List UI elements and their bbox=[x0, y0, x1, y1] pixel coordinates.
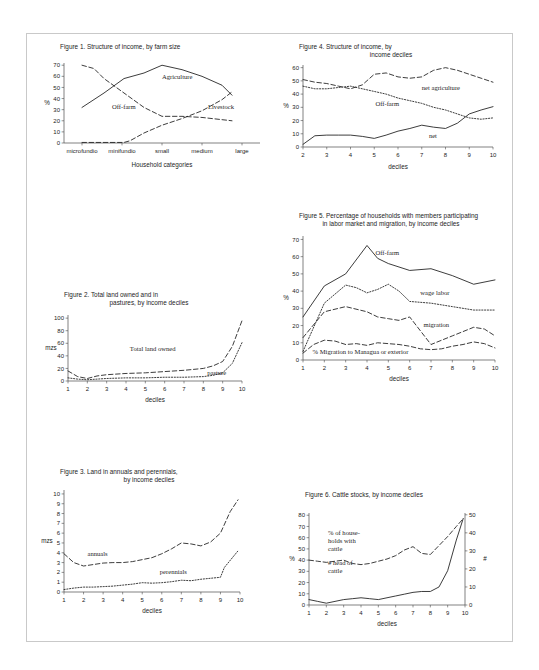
figure5-series-label: wage labor bbox=[420, 289, 450, 296]
figure2-y-tick-label: 60 bbox=[57, 340, 64, 346]
figure4-x-tick-label: 5 bbox=[373, 152, 377, 158]
figure2-y-tick-label: 100 bbox=[54, 315, 65, 321]
figure2-series-label: pasture bbox=[207, 369, 226, 376]
figure-4-structure-of-income-by-income-deciles: Figure 4. Structure of income, byincome … bbox=[275, 41, 507, 181]
figure6-title-line: Figure 6. Cattle stocks, by income decil… bbox=[305, 491, 423, 499]
figure4-y-axis-label: % bbox=[283, 102, 289, 109]
figure6-x-tick-label: 10 bbox=[462, 610, 469, 616]
figure4-y-tick-label: 50 bbox=[292, 78, 299, 84]
figure3-y-axis-label: mzs bbox=[41, 537, 53, 544]
figure6-x-tick-label: 7 bbox=[411, 610, 415, 616]
figure6-x-tick-label: 2 bbox=[325, 610, 329, 616]
figure1-y-axis-label: % bbox=[44, 99, 50, 106]
figure5-x-tick-label: 2 bbox=[323, 365, 327, 371]
figure3-x-tick-label: 7 bbox=[180, 597, 184, 603]
figure5-x-tick-label: 9 bbox=[472, 365, 476, 371]
figure6-svg: Figure 6. Cattle stocks, by income decil… bbox=[275, 489, 505, 641]
figure-3-land-in-annuals-and-perennials: Figure 3. Land in annuals and perennials… bbox=[34, 466, 264, 626]
figure3-title-line: Figure 3. Land in annuals and perennials… bbox=[60, 468, 178, 476]
figure5-title-line: in labor market and migration, by income… bbox=[322, 220, 459, 228]
figure3-y-tick-label: 5 bbox=[57, 540, 61, 546]
figure5-x-tick-label: 10 bbox=[492, 365, 499, 371]
figure3-x-tick-label: 10 bbox=[237, 597, 244, 603]
figure2-y-tick-label: 80 bbox=[57, 328, 64, 334]
figure5-x-tick-label: 4 bbox=[365, 365, 369, 371]
figure2-x-tick-label: 6 bbox=[163, 386, 167, 392]
figure6-x-axis-label: deciles bbox=[377, 620, 397, 627]
figure6-y-tick-label: 60 bbox=[298, 535, 305, 541]
figure6-x-tick-label: 4 bbox=[359, 610, 363, 616]
figure1-x-tick-label: microfundio bbox=[66, 148, 98, 154]
figure3-y-tick-label: 1 bbox=[57, 579, 61, 585]
figure3-y-tick-label: 6 bbox=[57, 530, 61, 536]
figure5-x-tick-label: 3 bbox=[344, 365, 348, 371]
figure3-y-tick-label: 2 bbox=[57, 569, 61, 575]
figure3-series-label: annuals bbox=[87, 550, 108, 557]
figure5-x-tick-label: 7 bbox=[429, 365, 433, 371]
figure1-x-tick-label: large bbox=[235, 148, 249, 154]
figure4-title-line: income deciles bbox=[370, 51, 412, 58]
figure3-series-label: perennials bbox=[160, 568, 188, 575]
figure6-x-tick-label: 5 bbox=[377, 610, 381, 616]
figure2-x-axis-label: deciles bbox=[145, 396, 165, 403]
figure3-x-tick-label: 2 bbox=[82, 597, 86, 603]
figure6-series-label: # head of bbox=[328, 559, 353, 566]
figure6-y2-tick-label: 20 bbox=[469, 566, 476, 572]
figure1-y-tick-label: 60 bbox=[53, 73, 60, 79]
figure3-y-tick-label: 3 bbox=[57, 560, 61, 566]
figure4-y-tick-label: 20 bbox=[292, 118, 299, 124]
figure6-y2-tick-label: 50 bbox=[469, 512, 476, 518]
figure4-x-tick-label: 2 bbox=[301, 152, 305, 158]
figure2-x-tick-label: 1 bbox=[66, 386, 70, 392]
figure1-y-tick-label: 30 bbox=[53, 107, 60, 113]
figure4-x-tick-label: 3 bbox=[325, 152, 329, 158]
figure-page: Figure 1. Structure of income, by farm s… bbox=[26, 33, 513, 642]
figure1-series-label: Agriculture bbox=[162, 73, 192, 80]
figure6-y-tick-label: 20 bbox=[298, 580, 305, 586]
figure5-x-axis-label: deciles bbox=[389, 375, 409, 382]
figure6-y2-tick-label: 10 bbox=[469, 584, 476, 590]
figure4-y-tick-label: 0 bbox=[296, 144, 300, 150]
figure-6-cattle-stocks-by-income-deciles: Figure 6. Cattle stocks, by income decil… bbox=[275, 489, 505, 641]
figure2-y-tick-label: 40 bbox=[57, 353, 64, 359]
figure3-x-tick-label: 8 bbox=[199, 597, 203, 603]
figure4-x-axis-label: deciles bbox=[388, 163, 408, 170]
figure1-series-line bbox=[82, 65, 232, 107]
figure6-y-tick-label: 80 bbox=[298, 512, 305, 518]
figure2-y-axis-label: mzs bbox=[45, 344, 57, 351]
figure6-y-tick-label: 40 bbox=[298, 557, 305, 563]
figure2-x-tick-label: 3 bbox=[105, 386, 109, 392]
figure4-series-line bbox=[303, 68, 493, 89]
figure-2-total-land-owned-and-pastures: Figure 2. Total land owned and inpasture… bbox=[34, 289, 264, 415]
figure4-x-tick-label: 6 bbox=[396, 152, 400, 158]
figure3-y-tick-label: 9 bbox=[57, 501, 61, 507]
figure4-x-tick-label: 10 bbox=[490, 152, 497, 158]
figure3-x-tick-label: 1 bbox=[62, 597, 66, 603]
figure4-y-tick-label: 10 bbox=[292, 131, 299, 137]
figure4-series-label: Off-farm bbox=[375, 100, 400, 107]
figure4-series-line bbox=[303, 107, 493, 145]
figure3-x-tick-label: 5 bbox=[141, 597, 145, 603]
figure5-y-tick-label: 60 bbox=[292, 254, 299, 260]
figure5-y-tick-label: 70 bbox=[292, 237, 299, 243]
figure5-x-tick-label: 8 bbox=[451, 365, 455, 371]
figure1-y-tick-label: 10 bbox=[53, 129, 60, 135]
figure6-x-tick-label: 1 bbox=[307, 610, 311, 616]
figure1-x-tick-label: medium bbox=[191, 148, 212, 154]
figure3-x-tick-label: 3 bbox=[101, 597, 105, 603]
figure3-y-tick-label: 0 bbox=[57, 589, 61, 595]
figure6-x-tick-label: 3 bbox=[342, 610, 346, 616]
figure6-x-tick-label: 9 bbox=[446, 610, 450, 616]
figure4-title-line: Figure 4. Structure of income, by bbox=[299, 43, 393, 51]
figure4-y-tick-label: 40 bbox=[292, 91, 299, 97]
figure5-x-tick-label: 1 bbox=[301, 365, 305, 371]
figure5-y-axis-label: % bbox=[283, 294, 289, 301]
figure5-x-tick-label: 5 bbox=[387, 365, 391, 371]
figure5-series-line bbox=[303, 307, 495, 345]
figure1-x-tick-label: small bbox=[155, 148, 169, 154]
figure6-y-axis-label: % bbox=[289, 555, 295, 562]
figure2-title-line: pastures, by income deciles bbox=[110, 299, 189, 307]
figure1-y-tick-label: 70 bbox=[53, 62, 60, 68]
figure5-series-label: Off-farm bbox=[376, 249, 401, 256]
figure6-series-label: cattle bbox=[328, 545, 342, 552]
